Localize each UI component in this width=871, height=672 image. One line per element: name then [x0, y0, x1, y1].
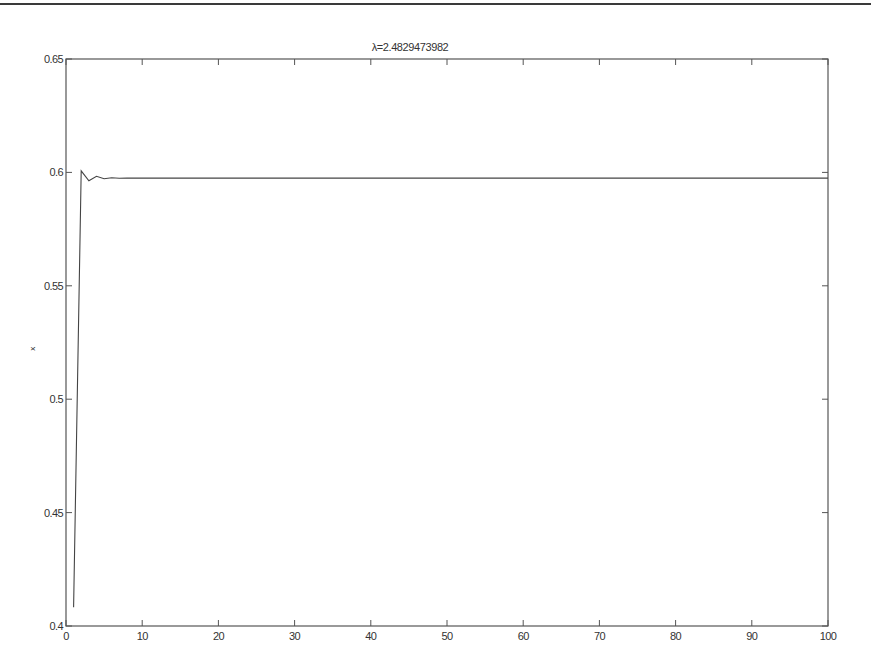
x-tick-label: 90	[746, 630, 758, 642]
x-tick-label: 30	[289, 630, 301, 642]
x-tick-label: 10	[137, 630, 149, 642]
line-chart: λ=2.4829473982 0102030405060708090100 0.…	[0, 0, 871, 672]
x-tick-label: 20	[213, 630, 225, 642]
data-series	[74, 171, 828, 607]
x-axis: 0102030405060708090100	[63, 59, 837, 642]
x-tick-label: 70	[594, 630, 606, 642]
y-tick-label: 0.55	[44, 280, 63, 292]
y-tick-label: 0.6	[50, 166, 64, 178]
x-tick-label: 40	[365, 630, 377, 642]
x-tick-label: 50	[441, 630, 453, 642]
series-line	[74, 171, 828, 607]
plot-area	[66, 59, 828, 626]
x-tick-label: 0	[63, 630, 69, 642]
x-tick-label: 80	[670, 630, 682, 642]
chart-title: λ=2.4829473982	[372, 41, 449, 53]
x-tick-label: 100	[820, 630, 837, 642]
axes-frame	[66, 59, 828, 626]
x-tick-label: 60	[518, 630, 530, 642]
y-axis-label: x	[28, 347, 37, 351]
y-axis: 0.40.450.50.550.60.65	[44, 53, 828, 632]
y-tick-label: 0.4	[50, 620, 64, 632]
y-tick-label: 0.5	[50, 393, 64, 405]
y-tick-label: 0.45	[44, 507, 63, 519]
y-tick-label: 0.65	[44, 53, 63, 65]
